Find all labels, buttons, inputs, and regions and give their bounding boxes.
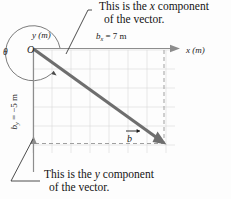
- y-component-label: by = −5 m: [9, 86, 21, 138]
- y-component-symbol: b: [9, 125, 19, 130]
- callout-x-line1-a: This is the: [99, 0, 150, 12]
- callout-y-line1-b: component: [100, 168, 154, 180]
- theta-angle-label: θ: [3, 47, 8, 59]
- callout-y-line2: of the vector.: [49, 180, 109, 194]
- callout-x-line1-b: component: [155, 0, 209, 12]
- origin-label: O: [27, 44, 34, 56]
- x-component-subscript: x: [101, 35, 104, 42]
- x-axis-arrowhead: [170, 45, 180, 52]
- callout-x-component: This is the x component of the vector.: [99, 0, 209, 13]
- axis-lines: [33, 48, 170, 172]
- x-component-value: = 7 m: [106, 31, 127, 41]
- y-component-subscript: y: [13, 122, 20, 125]
- leader-line-x-callout: [66, 10, 92, 54]
- x-axis-label: x (m): [186, 45, 205, 56]
- callout-y-component: This is the y component of the vector.: [44, 167, 154, 181]
- y-component-value: = −5 m: [9, 94, 19, 120]
- callout-x-line2: of the vector.: [104, 12, 164, 26]
- callout-y-line1-a: This is the: [44, 168, 95, 180]
- vector-b: [34, 49, 167, 145]
- x-component-label: bx = 7 m: [96, 31, 127, 43]
- y-axis-label: y (m): [32, 30, 51, 41]
- vector-b-label: b: [127, 133, 132, 145]
